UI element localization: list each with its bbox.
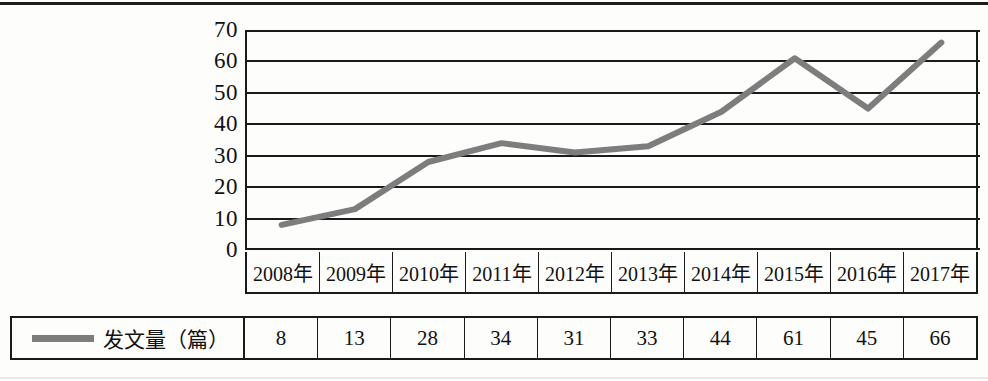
y-tick-label-50: 50 [180, 81, 238, 104]
legend-line-swatch [32, 335, 94, 342]
data-value-cell: 34 [465, 318, 538, 358]
x-axis-label-cell: 2011年 [466, 252, 539, 292]
x-axis-label-text: 2011年 [472, 258, 531, 287]
data-value-cell: 45 [831, 318, 904, 358]
x-axis-label-text: 2010年 [399, 258, 459, 287]
x-axis-label-cell: 2010年 [393, 252, 466, 292]
data-value-row: 发文量（篇） 8132834313344614566 [10, 316, 978, 360]
series-line-chart [245, 30, 978, 250]
legend-label: 发文量（篇） [103, 323, 229, 353]
data-value-text: 66 [929, 326, 950, 351]
x-axis-label-text: 2014年 [691, 258, 751, 287]
data-value-cell: 44 [684, 318, 757, 358]
y-tick-label-40: 40 [180, 112, 238, 135]
x-axis-label-text: 2013年 [618, 258, 678, 287]
data-value-cell: 61 [757, 318, 830, 358]
y-tick-label-0: 0 [180, 238, 238, 261]
y-axis-tick-labels: 706050403020100 [180, 30, 238, 250]
x-axis-label-text: 2008年 [253, 258, 313, 287]
x-axis-label-text: 2017年 [910, 258, 970, 287]
data-value-text: 34 [490, 326, 511, 351]
y-tick-label-70: 70 [180, 18, 238, 41]
y-tick-label-20: 20 [180, 175, 238, 198]
y-tick-label-10: 10 [180, 207, 238, 230]
data-value-text: 61 [783, 326, 804, 351]
data-value-text: 33 [637, 326, 658, 351]
data-value-text: 31 [563, 326, 584, 351]
x-axis-label-cell: 2014年 [685, 252, 758, 292]
data-value-text: 8 [276, 326, 287, 351]
y-tick-label-30: 30 [180, 144, 238, 167]
series-line-0 [282, 43, 942, 225]
data-value-cell: 33 [611, 318, 684, 358]
data-value-cell: 13 [318, 318, 391, 358]
x-axis-label-cell: 2016年 [831, 252, 904, 292]
x-axis-label-cell: 2013年 [612, 252, 685, 292]
data-value-cell: 28 [391, 318, 464, 358]
x-axis-label-cell: 2012年 [539, 252, 612, 292]
data-value-text: 45 [856, 326, 877, 351]
x-axis-label-cell: 2015年 [758, 252, 831, 292]
x-axis-label-text: 2012年 [545, 258, 605, 287]
y-tick-label-60: 60 [180, 49, 238, 72]
x-axis-label-cell: 2009年 [320, 252, 393, 292]
x-axis-label-text: 2009年 [326, 258, 386, 287]
x-axis-label-row: 2008年2009年2010年2011年2012年2013年2014年2015年… [245, 252, 978, 294]
x-axis-label-text: 2016年 [837, 258, 897, 287]
x-axis-label-cell: 2008年 [247, 252, 320, 292]
chart-plot-area [245, 30, 978, 250]
legend-cell: 发文量（篇） [12, 318, 245, 358]
data-value-cell: 8 [245, 318, 318, 358]
page-top-rule [0, 2, 988, 5]
x-axis-label-cell: 2017年 [904, 252, 976, 292]
x-axis-label-text: 2015年 [764, 258, 824, 287]
data-value-cell: 31 [538, 318, 611, 358]
data-value-text: 28 [417, 326, 438, 351]
data-value-text: 13 [344, 326, 365, 351]
data-value-cell: 66 [904, 318, 976, 358]
page-bottom-rule [0, 377, 988, 379]
data-value-text: 44 [710, 326, 731, 351]
